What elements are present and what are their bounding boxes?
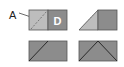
dark-rectangle (29, 41, 67, 61)
label-a: A (9, 9, 17, 21)
dark-square (98, 10, 117, 30)
dark-rectangle (79, 41, 117, 61)
label-d: D (54, 15, 62, 27)
panel-top-left: D (29, 10, 67, 30)
block-diagram: A D (0, 0, 124, 67)
panel-top-right (79, 10, 117, 30)
panel-bottom-right (79, 41, 117, 61)
panel-bottom-left (29, 41, 67, 61)
